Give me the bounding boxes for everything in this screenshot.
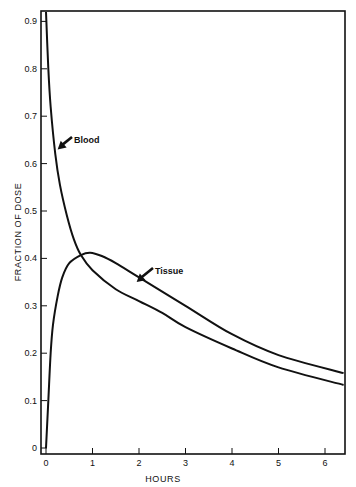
x-tick-label: 5 [276,458,281,468]
y-tick-label: 0.9 [24,16,37,26]
data-series [46,12,344,448]
x-tick-label: 3 [183,458,188,468]
y-tick-label: 0.2 [24,348,37,358]
blood-curve [46,12,344,385]
plot-frame [41,11,345,454]
y-axis-ticks: 00.10.20.30.40.50.60.70.80.9 [24,16,47,453]
blood-annotation: Blood [58,135,100,149]
arrow-shaft [141,268,153,278]
pharmacokinetics-chart: 00.10.20.30.40.50.60.70.80.9 0123456 HOU… [0,0,356,487]
y-tick-label: 0.4 [24,253,37,263]
y-tick-label: 0.8 [24,64,37,74]
y-tick-label: 0.5 [24,206,37,216]
x-tick-label: 1 [90,458,95,468]
y-tick-label: 0.1 [24,396,37,406]
x-axis-title: HOURS [145,474,181,484]
annotation-label: Tissue [155,266,183,276]
annotation-label: Blood [74,135,100,145]
x-tick-label: 6 [322,458,327,468]
y-tick-label: 0.7 [24,111,37,121]
y-axis-title: FRACTION OF DOSE [13,183,23,282]
y-tick-label: 0.6 [24,159,37,169]
tissue-annotation: Tissue [137,266,184,282]
x-tick-label: 0 [43,458,48,468]
x-tick-label: 2 [136,458,141,468]
annotations: BloodTissue [58,135,184,282]
x-tick-label: 4 [229,458,234,468]
x-axis-ticks: 0123456 [43,448,327,468]
tissue-curve [46,253,344,448]
y-tick-label: 0.3 [24,301,37,311]
y-tick-label: 0 [32,443,37,453]
